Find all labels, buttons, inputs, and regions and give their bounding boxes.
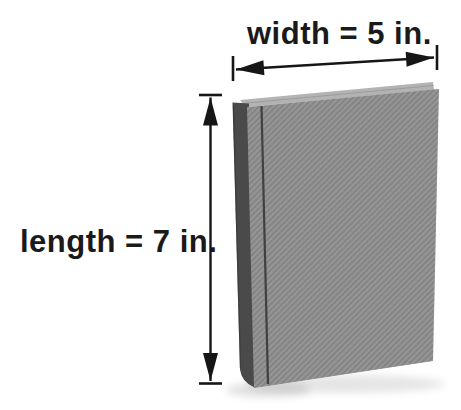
width-arrow-right-head [406, 52, 434, 67]
length-arrow-bottom-head [203, 353, 218, 381]
width-arrow-shaft [236, 58, 434, 70]
book-illustration [233, 82, 440, 388]
length-arrow-top-head [203, 98, 218, 126]
book-measurement-diagram [0, 0, 461, 410]
book-cover-texture [247, 89, 439, 388]
width-arrow-left-head [236, 60, 264, 75]
width-dimension-label: width = 5 in. [247, 16, 432, 52]
length-dimension-label: length = 7 in. [20, 224, 217, 260]
figure-canvas: width = 5 in. length = 7 in. [0, 0, 461, 410]
